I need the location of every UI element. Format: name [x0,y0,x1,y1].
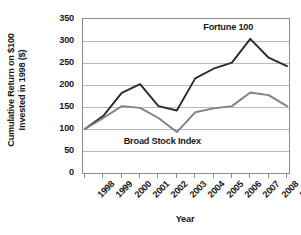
y-axis-tick-label: 350 [59,13,74,23]
x-axis-tick-label: 2001 [151,179,172,200]
y-axis-title-line-2: Invested in 1998 ($) [17,33,28,146]
series-lines [83,19,289,173]
y-axis-tick-label: 100 [59,123,74,133]
x-axis-tick-mark [231,173,232,178]
x-axis-title: Year [82,214,288,224]
x-axis-tick-label: 2006 [243,179,264,200]
x-axis-tick-mark [194,173,195,178]
series-label-fortune-100: Fortune 100 [203,22,253,32]
x-axis-tick-mark [157,173,158,178]
y-axis-tick-label: 0 [69,167,74,177]
series-line-broad-stock-index [85,92,287,132]
y-axis-title: Cumulative Return on $100 Invested in 19… [0,0,34,180]
x-axis-tick-mark [121,173,122,178]
x-axis-tick-mark [139,173,140,178]
x-axis-tick-labels: 1998199920002001200220032004200520062007… [82,173,290,213]
y-axis-title-line-1: Cumulative Return on $100 [6,33,17,146]
x-axis-tick-label: 2000 [132,179,153,200]
chart-figure: Cumulative Return on $100 Invested in 19… [0,0,301,235]
x-axis-tick-label: 1999 [114,179,135,200]
y-axis-tick-label: 300 [59,35,74,45]
y-axis-tick-labels: 050100150200250300350 [34,0,78,235]
x-axis-tick-mark [286,173,287,178]
x-axis-tick-label: 2003 [187,179,208,200]
series-label-broad-stock-index: Broad Stock Index [124,136,201,146]
x-axis-tick-mark [213,173,214,178]
plot-area: Fortune 100Broad Stock Index [82,18,290,174]
x-axis-tick-mark [249,173,250,178]
y-axis-tick-label: 200 [59,79,74,89]
x-axis-tick-label: 2002 [169,179,190,200]
x-axis-tick-label: 2009 [298,179,301,200]
y-axis-tick-label: 250 [59,57,74,67]
x-axis-tick-label: 2007 [261,179,282,200]
x-axis-tick-mark [102,173,103,178]
x-axis-tick-mark [268,173,269,178]
plot-inner: Fortune 100Broad Stock Index [83,19,289,173]
series-line-fortune-100 [85,39,287,129]
x-axis-tick-label: 2004 [206,179,227,200]
x-axis-tick-mark [176,173,177,178]
x-axis-tick-label: 2008 [279,179,300,200]
y-axis-tick-label: 50 [64,145,74,155]
x-axis-tick-label: 2005 [224,179,245,200]
x-axis-tick-label: 1998 [96,179,117,200]
y-axis-tick-label: 150 [59,101,74,111]
x-axis-tick-mark [84,173,85,178]
